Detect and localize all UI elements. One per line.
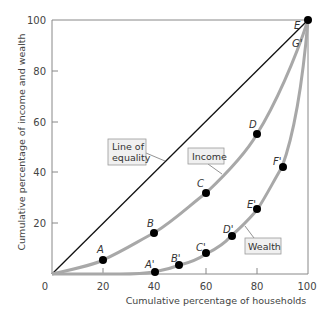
y-tick-20: 20 <box>33 218 46 229</box>
point-b <box>150 229 158 237</box>
point-a <box>99 256 107 264</box>
x-tick-100: 100 <box>297 281 316 292</box>
y-tick-100: 100 <box>27 15 46 26</box>
label-a: A <box>96 244 104 255</box>
equality-annotation: Line of equality <box>108 139 165 165</box>
y-tick-60: 60 <box>33 117 46 128</box>
point-d <box>253 130 261 138</box>
label-a-prime: A' <box>144 259 155 270</box>
income-label: Income <box>192 151 227 162</box>
label-e: E <box>294 20 301 31</box>
label-d-prime: D' <box>223 224 233 235</box>
point-c <box>202 189 210 197</box>
y-tick-80: 80 <box>33 66 46 77</box>
label-b-prime: B' <box>171 253 181 264</box>
x-tick-80: 80 <box>251 281 264 292</box>
label-c-prime: C' <box>196 242 206 253</box>
label-g-prime: G' <box>292 38 303 49</box>
wealth-annotation: Wealth <box>245 226 281 254</box>
x-tick-20: 20 <box>97 281 110 292</box>
y-tick-40: 40 <box>33 167 46 178</box>
lorenz-curve-chart: 20 40 60 80 100 0 20 40 60 80 100 Cumula… <box>0 0 333 319</box>
label-c: C <box>197 178 204 189</box>
y-axis-ticks <box>52 71 58 223</box>
income-annotation: Income <box>188 148 227 174</box>
line-of-equality <box>52 20 308 274</box>
label-f-prime: F' <box>273 156 282 167</box>
wealth-label: Wealth <box>248 241 281 252</box>
equality-label-line2: equality <box>112 152 151 163</box>
origin-label: 0 <box>42 281 48 292</box>
label-b: B <box>147 218 154 229</box>
point-e <box>304 16 312 24</box>
x-tick-40: 40 <box>148 281 161 292</box>
x-tick-60: 60 <box>200 281 213 292</box>
y-axis-title: Cumulative percentage of income and weal… <box>16 33 27 250</box>
label-e-prime: E' <box>247 199 256 210</box>
label-d: D <box>249 119 257 130</box>
equality-label-line1: Line of <box>112 141 145 152</box>
x-axis-title: Cumulative percentage of households <box>126 295 307 306</box>
